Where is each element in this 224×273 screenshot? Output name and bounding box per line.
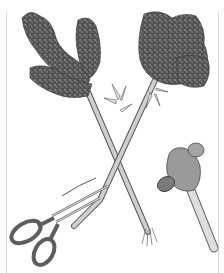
leaves (104, 84, 168, 112)
illustration-frame (0, 0, 224, 273)
scissors (8, 178, 108, 269)
hammer (155, 143, 214, 248)
lilac-illustration (0, 0, 224, 273)
